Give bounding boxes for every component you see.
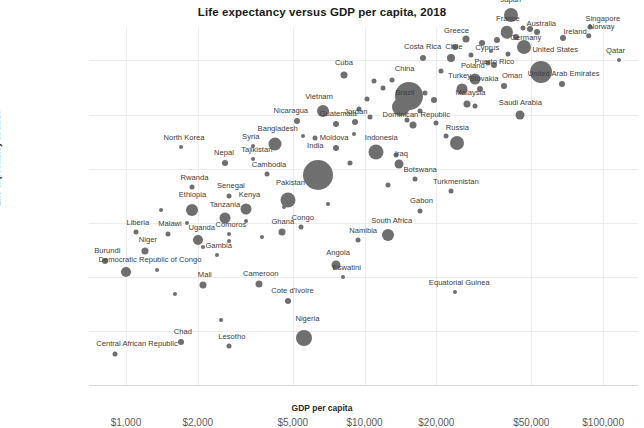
data-point[interactable] (227, 232, 231, 236)
data-point[interactable] (489, 49, 493, 53)
data-point[interactable] (469, 73, 480, 84)
data-point[interactable] (434, 121, 439, 126)
data-point[interactable] (178, 339, 184, 345)
data-point[interactable] (395, 160, 404, 169)
data-point[interactable] (159, 208, 163, 212)
data-point[interactable] (506, 51, 511, 56)
data-point[interactable] (251, 144, 255, 148)
data-point[interactable] (173, 292, 177, 296)
data-point[interactable] (486, 60, 491, 65)
data-point[interactable] (281, 193, 296, 208)
data-point[interactable] (369, 145, 384, 160)
data-point[interactable] (348, 161, 353, 166)
data-point[interactable] (227, 239, 231, 243)
data-point[interactable] (199, 282, 206, 289)
data-point[interactable] (501, 26, 513, 38)
data-point[interactable] (226, 344, 231, 349)
data-point[interactable] (356, 238, 361, 243)
data-point[interactable] (251, 157, 255, 161)
data-point[interactable] (241, 203, 252, 214)
data-point[interactable] (317, 105, 329, 117)
data-point[interactable] (340, 71, 347, 78)
data-point[interactable] (333, 121, 339, 127)
data-point[interactable] (313, 136, 318, 141)
data-point[interactable] (413, 177, 418, 182)
data-point[interactable] (456, 83, 467, 94)
data-point[interactable] (155, 268, 159, 272)
data-point[interactable] (141, 247, 148, 254)
data-point[interactable] (298, 225, 303, 230)
data-point[interactable] (332, 260, 341, 269)
data-point[interactable] (530, 61, 552, 83)
data-point[interactable] (185, 221, 189, 225)
data-point[interactable] (226, 193, 231, 198)
data-point[interactable] (326, 202, 330, 206)
data-point[interactable] (385, 182, 390, 187)
data-point[interactable] (491, 62, 497, 68)
data-point[interactable] (501, 83, 507, 89)
data-point[interactable] (520, 26, 525, 31)
data-point[interactable] (179, 145, 183, 149)
data-point[interactable] (560, 35, 566, 41)
data-point[interactable] (165, 231, 170, 236)
data-point[interactable] (219, 213, 230, 224)
data-point[interactable] (278, 229, 285, 236)
data-point[interactable] (453, 290, 457, 294)
data-point[interactable] (294, 118, 300, 124)
data-point[interactable] (534, 29, 540, 35)
data-point[interactable] (462, 35, 469, 42)
data-point[interactable] (260, 235, 264, 239)
data-point[interactable] (244, 219, 248, 223)
data-point[interactable] (296, 330, 312, 346)
data-point[interactable] (193, 235, 203, 245)
data-point[interactable] (494, 37, 500, 43)
data-point[interactable] (517, 40, 531, 54)
data-point[interactable] (587, 24, 592, 29)
data-point[interactable] (133, 230, 138, 235)
data-point[interactable] (504, 8, 518, 22)
data-point[interactable] (333, 145, 339, 151)
data-point[interactable] (352, 132, 356, 136)
data-point[interactable] (121, 267, 131, 277)
data-point[interactable] (102, 258, 108, 264)
data-point[interactable] (393, 152, 398, 157)
data-point[interactable] (389, 77, 394, 82)
data-point[interactable] (364, 97, 369, 102)
data-point[interactable] (439, 69, 444, 74)
data-point[interactable] (479, 40, 485, 46)
data-point[interactable] (420, 55, 426, 61)
data-point[interactable] (469, 53, 474, 58)
data-point[interactable] (190, 185, 195, 190)
data-point[interactable] (448, 189, 453, 194)
data-point[interactable] (513, 34, 519, 40)
data-point[interactable] (447, 54, 455, 62)
data-point[interactable] (586, 33, 592, 39)
data-point[interactable] (357, 107, 362, 112)
data-point[interactable] (352, 119, 358, 125)
data-point[interactable] (464, 100, 471, 107)
data-point[interactable] (264, 172, 269, 177)
data-point[interactable] (222, 160, 228, 166)
data-point[interactable] (404, 117, 409, 122)
data-point[interactable] (381, 85, 386, 90)
data-point[interactable] (559, 81, 565, 87)
data-point[interactable] (201, 245, 205, 249)
data-point[interactable] (516, 110, 525, 119)
data-point[interactable] (372, 79, 377, 84)
data-point[interactable] (417, 109, 422, 114)
data-point[interactable] (268, 137, 281, 150)
data-point[interactable] (255, 281, 262, 288)
data-point[interactable] (367, 114, 372, 119)
data-point[interactable] (450, 136, 464, 150)
data-point[interactable] (341, 275, 345, 279)
data-point[interactable] (219, 318, 223, 322)
data-point[interactable] (477, 86, 483, 92)
data-point[interactable] (303, 160, 333, 190)
data-point[interactable] (382, 229, 394, 241)
data-point[interactable] (452, 44, 458, 50)
data-point[interactable] (285, 298, 291, 304)
data-point[interactable] (113, 351, 118, 356)
data-point[interactable] (392, 98, 410, 116)
data-point[interactable] (417, 208, 422, 213)
data-point[interactable] (527, 26, 533, 32)
